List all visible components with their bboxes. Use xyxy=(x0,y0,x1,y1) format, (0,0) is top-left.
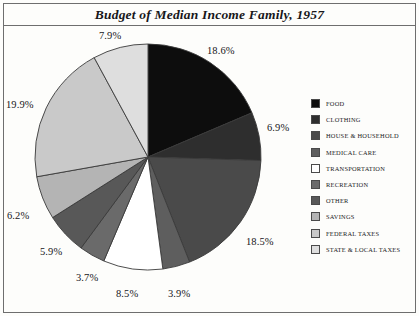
legend-swatch-icon xyxy=(311,148,320,157)
legend-item-label: FEDERAL TAXES xyxy=(326,229,379,238)
legend-swatch-icon xyxy=(311,212,320,221)
legend-item: OTHER xyxy=(311,195,415,206)
title-bar: Budget of Median Income Family, 1957 xyxy=(4,4,415,26)
pie-value-label: 19.9% xyxy=(6,99,34,110)
legend-item: FOOD xyxy=(311,98,415,109)
legend-item: MEDICAL CARE xyxy=(311,147,415,158)
legend-swatch-icon xyxy=(311,229,320,238)
legend-swatch-icon xyxy=(311,131,320,140)
legend-item: STATE & LOCAL TAXES xyxy=(311,244,415,255)
legend-item: HOUSE & HOUSEHOLD xyxy=(311,130,415,141)
legend-item-label: SAVINGS xyxy=(326,212,355,221)
legend-item-label: CLOTHING xyxy=(326,115,361,124)
pie-value-label: 18.6% xyxy=(207,45,235,56)
pie-value-label: 3.7% xyxy=(76,272,98,283)
legend-item-label: TRANSPORTATION xyxy=(326,164,385,173)
legend-item-label: RECREATION xyxy=(326,180,368,189)
legend-item: SAVINGS xyxy=(311,211,415,222)
chart-page: Budget of Median Income Family, 1957 18.… xyxy=(0,0,419,316)
legend-item-label: MEDICAL CARE xyxy=(326,148,377,157)
legend-item: TRANSPORTATION xyxy=(311,163,415,174)
pie-slice-group xyxy=(35,44,261,270)
legend-item-label: OTHER xyxy=(326,196,349,205)
pie-value-label: 8.5% xyxy=(116,288,138,299)
legend-item: CLOTHING xyxy=(311,114,415,125)
legend-item-label: STATE & LOCAL TAXES xyxy=(326,245,400,254)
pie-chart-svg xyxy=(33,42,263,272)
pie-value-label: 7.9% xyxy=(99,30,121,41)
legend-item-label: FOOD xyxy=(326,99,344,108)
pie-value-label: 3.9% xyxy=(168,288,190,299)
pie-value-label: 18.5% xyxy=(246,236,274,247)
legend-swatch-icon xyxy=(311,196,320,205)
legend-swatch-icon xyxy=(311,245,320,254)
legend-swatch-icon xyxy=(311,180,320,189)
legend-item: RECREATION xyxy=(311,179,415,190)
legend: FOODCLOTHINGHOUSE & HOUSEHOLDMEDICAL CAR… xyxy=(311,98,415,260)
pie-value-label: 6.9% xyxy=(267,122,289,133)
page-title: Budget of Median Income Family, 1957 xyxy=(95,7,324,23)
pie-value-label: 5.9% xyxy=(40,246,62,257)
legend-item: FEDERAL TAXES xyxy=(311,228,415,239)
pie-chart xyxy=(33,42,263,272)
pie-value-label: 6.2% xyxy=(7,210,29,221)
legend-swatch-icon xyxy=(311,99,320,108)
legend-item-label: HOUSE & HOUSEHOLD xyxy=(326,131,399,140)
legend-swatch-icon xyxy=(311,164,320,173)
legend-swatch-icon xyxy=(311,115,320,124)
